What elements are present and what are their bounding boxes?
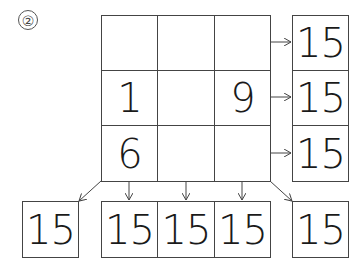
grid-cell-r3c1[interactable]: 6 <box>101 125 158 182</box>
grid-cell-r3c3[interactable] <box>214 125 271 182</box>
row-sum-2: 15 <box>292 70 349 126</box>
main-diagonal-sum: 15 <box>292 201 349 258</box>
column-sum-2: 15 <box>157 201 215 258</box>
grid-cell-r3c2[interactable] <box>157 125 215 182</box>
grid-cell-r1c1[interactable] <box>101 15 158 71</box>
column-sum-1: 15 <box>101 201 158 258</box>
grid-cell-r1c2[interactable] <box>157 15 215 71</box>
row-sum-1: 15 <box>292 15 349 71</box>
grid-cell-r2c3[interactable]: 9 <box>214 70 271 126</box>
grid-cell-r2c2[interactable] <box>157 70 215 126</box>
grid-cell-r2c1[interactable]: 1 <box>101 70 158 126</box>
grid-cell-r1c3[interactable] <box>214 15 271 71</box>
anti-diagonal-sum: 15 <box>22 201 79 258</box>
row-sum-3: 15 <box>292 125 349 182</box>
column-sum-3: 15 <box>214 201 271 258</box>
